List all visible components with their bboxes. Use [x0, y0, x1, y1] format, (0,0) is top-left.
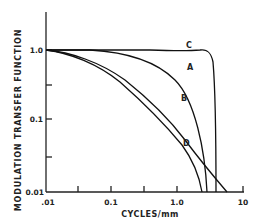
curve-b — [46, 50, 227, 192]
label-b: B — [181, 94, 187, 103]
x-axis-title: CYCLES/mm — [121, 210, 179, 219]
label-a: A — [187, 63, 194, 72]
y-tick-label-1: 1.0 — [30, 46, 43, 55]
y-tick-label-0-1: 0.1 — [30, 115, 43, 124]
x-tick-label-1: 1.0 — [170, 198, 183, 207]
curves — [46, 50, 227, 192]
curve-a — [46, 50, 207, 192]
y-axis-title: MODULATION TRANSFER FUNCTION — [14, 29, 23, 211]
curve-labels: C A B D — [181, 41, 194, 148]
label-d: D — [183, 139, 190, 148]
x-tick-label-0-01: .01 — [41, 198, 54, 207]
mtf-chart: C A B D 1.0 0.1 0.01 .01 0.1 1.0 10 CYCL… — [0, 0, 258, 223]
x-tick-labels: .01 0.1 1.0 10 — [41, 198, 248, 207]
axes — [46, 12, 244, 192]
y-tick-labels: 1.0 0.1 0.01 — [25, 46, 44, 197]
label-c: C — [186, 41, 192, 50]
x-tick-label-0-1: 0.1 — [104, 198, 117, 207]
y-tick-label-0-01: 0.01 — [25, 188, 44, 197]
curve-d — [46, 50, 202, 192]
x-tick-label-10: 10 — [238, 198, 248, 207]
